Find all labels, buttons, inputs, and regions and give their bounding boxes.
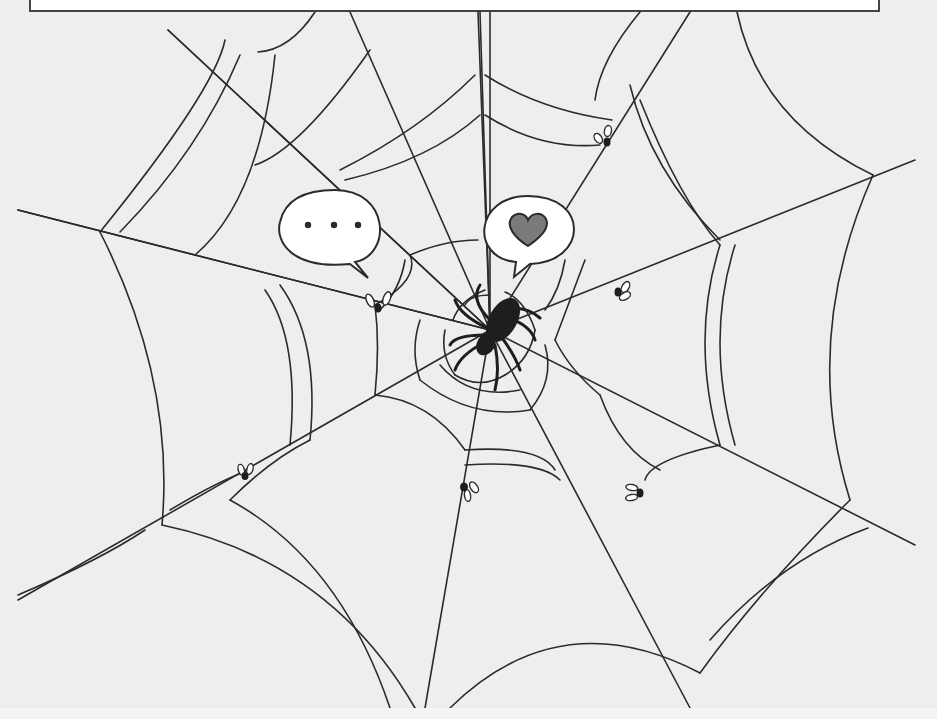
fly-icon — [615, 280, 632, 302]
web-middle-ring — [120, 50, 735, 510]
fly-icon — [592, 125, 612, 147]
ellipsis-dot-icon — [331, 222, 337, 228]
spider-icon — [450, 285, 540, 390]
illustration-canvas: Spider in a web thinking of love, with f… — [0, 0, 937, 719]
web-spokes — [18, 12, 915, 708]
bottom-margin — [0, 708, 937, 719]
ellipsis-speech-bubble — [279, 190, 380, 278]
fly-icon — [460, 480, 480, 502]
fly-icon — [625, 484, 643, 502]
spider-web — [0, 0, 937, 719]
heart-speech-bubble — [484, 196, 574, 277]
ellipsis-dot-icon — [305, 222, 311, 228]
ellipsis-dot-icon — [355, 222, 361, 228]
web-outer-ring — [18, 12, 873, 708]
